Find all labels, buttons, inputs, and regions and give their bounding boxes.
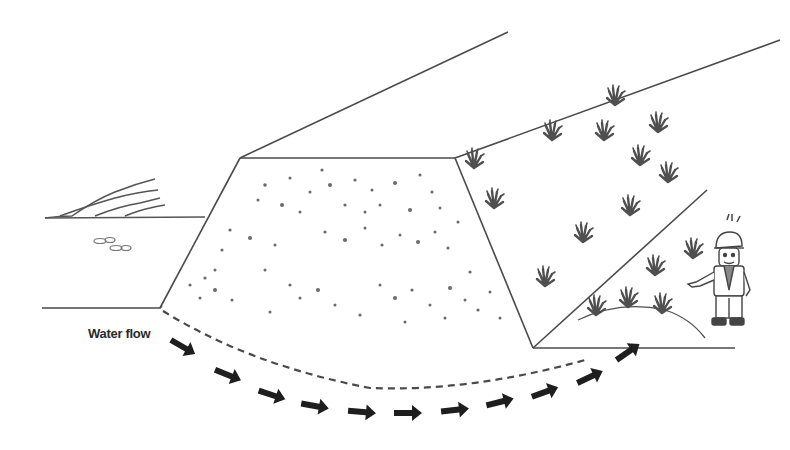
reservoir-waves [45,179,205,251]
inspector-figure [688,214,750,325]
embankment [160,32,780,348]
water-flow-label: Water flow [88,326,150,341]
diagram-canvas [0,0,790,450]
rock-dots [188,168,501,323]
ground-line-left [42,306,162,308]
flow-arrows [167,333,644,421]
embankment-diagram: Water flow [0,0,790,450]
small-stones [94,238,131,251]
